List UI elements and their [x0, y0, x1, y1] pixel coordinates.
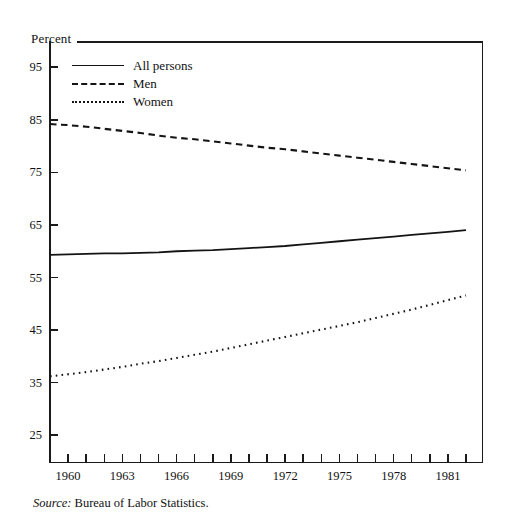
series-line-men — [50, 124, 466, 170]
chart-figure: Percent 9585756555453525 196019631966196… — [0, 0, 508, 529]
plot-area — [0, 0, 508, 529]
source-label: Source: — [33, 496, 71, 510]
source-note: Source: Bureau of Labor Statistics. — [33, 496, 209, 511]
series-line-all-persons — [50, 230, 466, 255]
source-value: Bureau of Labor Statistics. — [71, 496, 208, 510]
series-line-women — [50, 295, 466, 376]
